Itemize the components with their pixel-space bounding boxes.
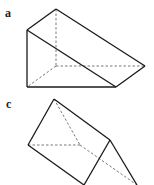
visible-edge xyxy=(54,99,110,140)
hidden-edge xyxy=(54,99,80,145)
hidden-edge xyxy=(27,66,56,87)
figure-c-triangular-prism xyxy=(28,99,137,185)
visible-edge xyxy=(110,140,137,185)
prism-diagrams xyxy=(0,0,154,185)
visible-edge xyxy=(84,140,110,185)
visible-edge xyxy=(28,145,84,185)
figure-a-triangular-prism xyxy=(27,9,145,87)
visible-edge xyxy=(28,99,54,145)
visible-edge xyxy=(27,9,56,30)
hidden-edge xyxy=(80,145,137,185)
visible-edge xyxy=(116,66,145,87)
